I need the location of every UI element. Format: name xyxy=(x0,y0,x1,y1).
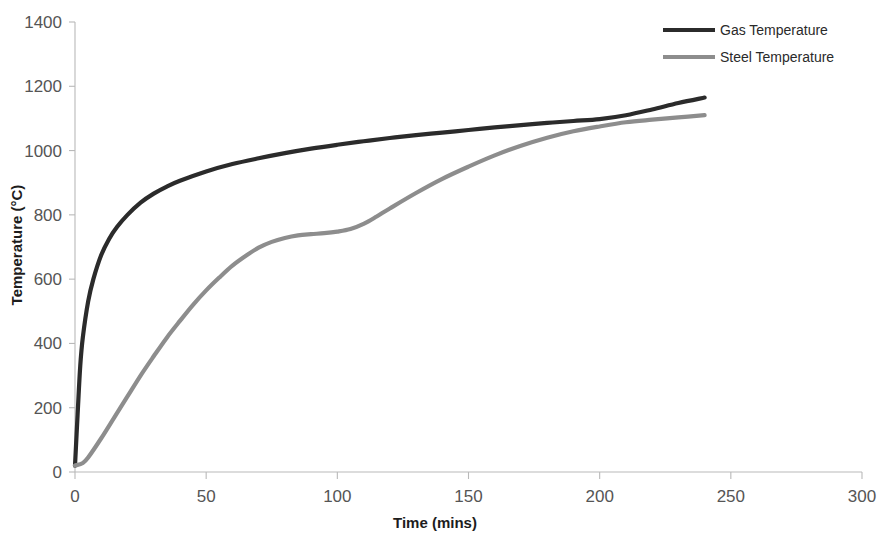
x-tick-label: 50 xyxy=(197,487,216,506)
x-tick-label: 250 xyxy=(717,487,745,506)
y-tick-label: 0 xyxy=(53,463,62,482)
legend-label-gas: Gas Temperature xyxy=(720,22,828,38)
y-tick-label: 400 xyxy=(34,334,62,353)
x-tick-label: 150 xyxy=(454,487,482,506)
x-tick-label: 0 xyxy=(70,487,79,506)
y-tick-label: 600 xyxy=(34,270,62,289)
chart-container: 0200400600800100012001400 05010015020025… xyxy=(0,0,883,543)
y-tick-label: 1000 xyxy=(24,142,62,161)
temperature-time-line-chart: 0200400600800100012001400 05010015020025… xyxy=(0,0,883,543)
chart-background xyxy=(0,0,883,543)
y-tick-label: 1200 xyxy=(24,77,62,96)
x-axis-title: Time (mins) xyxy=(393,514,477,531)
y-tick-label: 200 xyxy=(34,399,62,418)
y-axis-title: Temperature (°C) xyxy=(8,185,25,306)
x-tick-label: 300 xyxy=(848,487,876,506)
y-tick-label: 800 xyxy=(34,206,62,225)
y-tick-label: 1400 xyxy=(24,13,62,32)
x-tick-label: 100 xyxy=(323,487,351,506)
x-tick-label: 200 xyxy=(585,487,613,506)
legend-label-steel: Steel Temperature xyxy=(720,49,834,65)
